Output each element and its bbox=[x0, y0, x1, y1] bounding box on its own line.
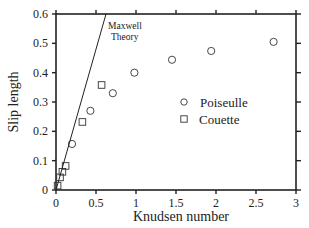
x-tick-label: 1 bbox=[133, 196, 139, 210]
maxwell-theory-line bbox=[56, 14, 106, 190]
maxwell-annotation-line2: Theory bbox=[111, 32, 139, 42]
y-tick-label: 0.6 bbox=[33, 7, 48, 21]
tick-labels: 00.511.522.5300.10.20.30.40.50.6 bbox=[33, 7, 299, 210]
poiseulle-point bbox=[87, 107, 94, 114]
x-tick-label: 0.5 bbox=[89, 196, 104, 210]
y-tick-label: 0.2 bbox=[33, 124, 48, 138]
poiseulle-point bbox=[270, 38, 277, 45]
legend-label-poiseulle: Poiseulle bbox=[200, 95, 248, 110]
x-tick-label: 1.5 bbox=[169, 196, 184, 210]
axis-ticks bbox=[52, 10, 301, 194]
plot-border bbox=[56, 14, 296, 190]
axes-frame bbox=[56, 14, 296, 190]
y-tick-label: 0.4 bbox=[33, 66, 48, 80]
poiseulle-point bbox=[109, 90, 116, 97]
y-tick-label: 0.1 bbox=[33, 154, 48, 168]
couette-point bbox=[98, 82, 105, 89]
poiseulle-point bbox=[168, 56, 175, 63]
x-tick-label: 3 bbox=[293, 196, 299, 210]
legend-circle-icon bbox=[181, 99, 187, 105]
legend-square-icon bbox=[181, 116, 187, 122]
x-axis-label: Knudsen number bbox=[133, 209, 229, 224]
y-tick-label: 0.3 bbox=[33, 95, 48, 109]
poiseulle-point bbox=[131, 69, 138, 76]
y-tick-label: 0 bbox=[42, 183, 48, 197]
plot-area: 00.511.522.5300.10.20.30.40.50.6 Maxwell… bbox=[0, 0, 309, 228]
chart: 00.511.522.5300.10.20.30.40.50.6 Maxwell… bbox=[0, 0, 309, 228]
x-tick-label: 0 bbox=[53, 196, 59, 210]
maxwell-annotation-line1: Maxwell bbox=[108, 21, 142, 31]
y-tick-label: 0.5 bbox=[33, 36, 48, 50]
x-tick-label: 2 bbox=[213, 196, 219, 210]
couette-point bbox=[79, 119, 86, 126]
y-axis-label: Slip length bbox=[6, 71, 21, 132]
poiseulle-point bbox=[208, 47, 215, 54]
x-tick-label: 2.5 bbox=[249, 196, 264, 210]
legend-label-couette: Couette bbox=[199, 112, 240, 127]
legend: Poiseulle Couette bbox=[181, 95, 248, 127]
